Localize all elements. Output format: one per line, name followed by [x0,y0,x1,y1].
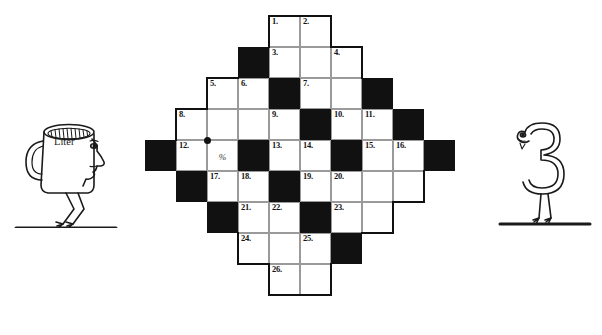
percent-symbol: % [208,152,237,162]
grid-cell[interactable]: 23. [331,202,362,233]
grid-clue-number: 22. [272,202,282,213]
grid-cell[interactable]: 25. [300,233,331,264]
grid-clue-number: 21. [241,202,251,213]
grid-cell[interactable]: 21. [238,202,269,233]
grid-cell[interactable] [393,171,424,202]
grid-outer-border [268,263,270,296]
worksheet-page: Liter [0,0,602,335]
grid-cell[interactable]: 12. [176,140,207,171]
grid-clue-number: 18. [241,171,251,182]
grid-outer-border [237,263,270,265]
grid-cell[interactable]: 14. [300,140,331,171]
grid-cell[interactable]: 15. [362,140,393,171]
grid-clue-number: 15. [365,140,375,151]
grid-clue-number: 25. [303,233,313,244]
grid-outer-border [268,294,301,296]
grid-cell[interactable]: 19. [300,171,331,202]
grid-cell[interactable] [207,109,238,140]
grid-clue-number: 1. [272,16,278,27]
grid-clue-number: 3. [272,47,278,58]
grid-cell[interactable]: 13. [269,140,300,171]
grid-cell[interactable]: 9. [269,109,300,140]
grid-outer-border [423,170,425,203]
numeral-three-character [498,108,598,228]
grid-cell-blocked [300,109,331,140]
grid-cell[interactable]: 7. [300,78,331,109]
grid-cell[interactable]: 18. [238,171,269,202]
grid-start-marker-dot [204,137,211,144]
grid-cell[interactable] [300,47,331,78]
grid-cell[interactable]: 10. [331,109,362,140]
grid-clue-number: 12. [179,140,189,151]
grid-cell-blocked [331,233,362,264]
grid-cell[interactable]: 24. [238,233,269,264]
grid-clue-number: 4. [334,47,340,58]
grid-cell[interactable]: % [207,140,238,171]
grid-clue-number: 26. [272,264,282,275]
grid-clue-number: 11. [365,109,375,120]
grid-clue-number: 14. [303,140,313,151]
grid-cell[interactable] [300,264,331,295]
grid-outer-border [392,201,425,203]
grid-cell-blocked [300,202,331,233]
grid-cell[interactable]: 5. [207,78,238,109]
grid-clue-number: 23. [334,202,344,213]
grid-outer-border [268,15,270,48]
grid-cell[interactable]: 1. [269,16,300,47]
grid-cell[interactable] [238,109,269,140]
crossword-grid[interactable]: 1.2.3.4.5.6.7.8.9.10.11.12.%13.14.15.16.… [145,16,486,295]
grid-clue-number: 7. [303,78,309,89]
grid-cell-blocked [424,140,455,171]
grid-outer-border [299,294,332,296]
liter-label: Liter [54,136,75,147]
grid-cell-blocked [238,140,269,171]
grid-clue-number: 24. [241,233,251,244]
grid-cell-blocked [362,78,393,109]
grid-cell-blocked [269,171,300,202]
grid-cell[interactable] [362,202,393,233]
grid-clue-number: 17. [210,171,220,182]
grid-outer-border [330,46,363,48]
grid-cell-blocked [238,47,269,78]
grid-clue-number: 8. [179,109,185,120]
grid-cell-blocked [269,78,300,109]
grid-cell-blocked [145,140,176,171]
grid-clue-number: 6. [241,78,247,89]
grid-cell[interactable]: 4. [331,47,362,78]
grid-clue-number: 2. [303,16,309,27]
grid-cell[interactable]: 2. [300,16,331,47]
grid-cell[interactable]: 16. [393,140,424,171]
grid-cell[interactable] [331,78,362,109]
grid-outer-border [392,201,394,234]
grid-cell[interactable]: 3. [269,47,300,78]
grid-outer-border [175,108,177,141]
grid-clue-number: 16. [396,140,406,151]
grid-cell[interactable]: 17. [207,171,238,202]
grid-cell-blocked [331,140,362,171]
grid-clue-number: 10. [334,109,344,120]
grid-cell[interactable]: 26. [269,264,300,295]
grid-cell[interactable] [362,171,393,202]
grid-outer-border [330,263,332,296]
grid-cell[interactable]: 22. [269,202,300,233]
grid-outer-border [299,15,332,17]
numeral-three-drawing [498,108,598,228]
grid-clue-number: 20. [334,171,344,182]
grid-outer-border [361,232,394,234]
grid-outer-border [361,46,363,79]
grid-outer-border [175,108,208,110]
measuring-cup-character: Liter [14,108,134,228]
grid-cell[interactable]: 6. [238,78,269,109]
grid-clue-number: 19. [303,171,313,182]
grid-cell[interactable]: 11. [362,109,393,140]
grid-cell[interactable]: 8. [176,109,207,140]
grid-cell-blocked [176,171,207,202]
grid-outer-border [206,77,208,110]
grid-clue-number: 13. [272,140,282,151]
grid-clue-number: 9. [272,109,278,120]
grid-outer-border [206,77,239,79]
grid-cell[interactable]: 20. [331,171,362,202]
grid-cell[interactable] [269,233,300,264]
grid-outer-border [237,232,239,265]
measuring-cup-drawing: Liter [14,108,134,228]
